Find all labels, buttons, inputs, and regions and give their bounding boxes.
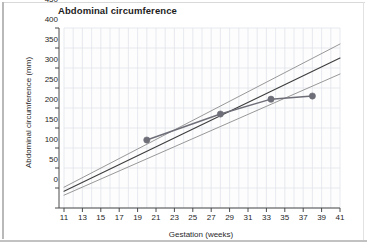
x-tick-label: 41 xyxy=(330,213,350,222)
x-tick-label: 21 xyxy=(146,213,166,222)
x-tick-label: 33 xyxy=(256,213,276,222)
y-tick-label: 100 xyxy=(32,136,58,144)
x-tick-label: 25 xyxy=(183,213,203,222)
data-point-marker xyxy=(144,137,150,143)
y-tick-label: 150 xyxy=(32,116,58,124)
x-tick-label: 37 xyxy=(293,213,313,222)
x-tick-label: 31 xyxy=(238,213,258,222)
data-point-marker xyxy=(268,96,274,102)
data-point-marker xyxy=(217,111,223,117)
x-tick-label: 17 xyxy=(109,213,129,222)
x-tick-label: 15 xyxy=(91,213,111,222)
y-tick-label: 250 xyxy=(32,76,58,84)
y-tick-label: 0 xyxy=(32,176,58,184)
y-tick-label: 300 xyxy=(32,56,58,64)
x-axis-tick-labels: 11131517192123252729313335373941 xyxy=(64,213,340,225)
plot-svg xyxy=(64,28,340,208)
x-tick-label: 23 xyxy=(164,213,184,222)
y-tick-label: 450 xyxy=(32,0,58,4)
y-tick-label: 350 xyxy=(32,36,58,44)
y-tick-label: 400 xyxy=(32,16,58,24)
plot-area xyxy=(64,28,340,208)
data-point-marker xyxy=(309,93,315,99)
frame-right-border xyxy=(363,2,364,240)
x-axis-label: Gestation (weeks) xyxy=(62,230,340,239)
chart-title: Abdominal circumference xyxy=(58,5,177,16)
gridlines xyxy=(64,28,340,208)
frame-left-border xyxy=(2,2,4,239)
x-tick-label: 13 xyxy=(72,213,92,222)
y-axis-tick-labels: 050100150200250300350400450 xyxy=(32,0,58,180)
x-tick-label: 11 xyxy=(54,213,74,222)
x-tick-label: 29 xyxy=(220,213,240,222)
x-tick-label: 35 xyxy=(275,213,295,222)
chart-screenshot: Abdominal circumference Abdominal circum… xyxy=(0,0,367,251)
x-tick-label: 19 xyxy=(128,213,148,222)
y-tick-label: 50 xyxy=(32,156,58,164)
frame-bottom-border xyxy=(0,240,367,242)
x-tick-label: 39 xyxy=(312,213,332,222)
y-tick-label: 200 xyxy=(32,96,58,104)
x-tick-label: 27 xyxy=(201,213,221,222)
